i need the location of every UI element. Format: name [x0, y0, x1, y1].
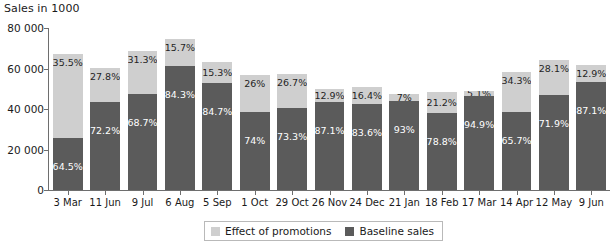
chart-bar[interactable]: 26.7%73.3%: [277, 74, 307, 190]
legend-item-effect-of-promotions[interactable]: Effect of promotions: [211, 225, 331, 237]
bar-slot: 7%93%: [386, 28, 423, 190]
bar-segment-label-baseline: 87.1%: [315, 126, 345, 136]
bar-segment-baseline[interactable]: 84.7%: [202, 83, 232, 190]
chart-bar[interactable]: 12.9%87.1%: [576, 65, 606, 190]
bar-segment-promotions[interactable]: 15.3%: [202, 62, 232, 82]
bar-segment-promotions[interactable]: 27.8%: [90, 68, 120, 102]
legend-label-promotions: Effect of promotions: [225, 225, 331, 237]
bar-segment-promotions[interactable]: 21.2%: [427, 92, 457, 113]
chart-legend: Effect of promotions Baseline sales: [204, 221, 443, 241]
bar-segment-promotions[interactable]: 34.3%: [502, 72, 532, 113]
bar-segment-label-promotions: 12.9%: [315, 91, 345, 101]
chart-bar[interactable]: 35.5%64.5%: [53, 54, 83, 190]
chart-bar[interactable]: 5.1%94.9%: [464, 91, 494, 190]
bar-segment-promotions[interactable]: 16.4%: [352, 87, 382, 104]
bar-slot: 15.3%84.7%: [199, 28, 236, 190]
bar-segment-label-promotions: 31.3%: [128, 55, 158, 65]
bar-segment-label-promotions: 15.3%: [202, 68, 232, 78]
x-axis-tick-label: 21 Jan: [389, 197, 420, 208]
bar-segment-promotions[interactable]: 31.3%: [128, 51, 158, 94]
bar-segment-baseline[interactable]: 72.2%: [90, 102, 120, 190]
chart-bar[interactable]: 34.3%65.7%: [502, 72, 532, 190]
x-axis-tick: [404, 191, 405, 195]
x-axis-tick: [292, 191, 293, 195]
bar-segment-label-baseline: 83.6%: [352, 128, 382, 138]
x-axis-tick-label: 1 Oct: [241, 197, 268, 208]
bar-segment-promotions[interactable]: 12.9%: [576, 65, 606, 81]
bar-slot: 12.9%87.1%: [573, 28, 610, 190]
chart-bar[interactable]: 16.4%83.6%: [352, 87, 382, 190]
x-axis-tick: [180, 191, 181, 195]
y-axis-tick-label: 60 000: [0, 63, 44, 75]
bar-segment-label-promotions: 26%: [244, 79, 265, 89]
bar-slot: 27.8%72.2%: [86, 28, 123, 190]
bar-segment-label-baseline: 84.3%: [165, 90, 195, 100]
x-axis-tick-label: 11 Jun: [89, 197, 121, 208]
bar-slot: 15.7%84.3%: [161, 28, 198, 190]
x-axis-tick-label: 9 Jun: [579, 197, 604, 208]
bar-segment-label-promotions: 27.8%: [90, 72, 120, 82]
chart-bar[interactable]: 15.3%84.7%: [202, 62, 232, 190]
bar-segment-label-baseline: 87.1%: [576, 106, 606, 116]
bar-segment-promotions[interactable]: 12.9%: [315, 89, 345, 102]
bar-segment-baseline[interactable]: 78.8%: [427, 113, 457, 190]
bar-segment-baseline[interactable]: 93%: [389, 101, 419, 190]
bar-slot: 26%74%: [236, 28, 273, 190]
bar-segment-label-promotions: 28.1%: [539, 64, 569, 74]
y-axis-tick-label: 80 000: [0, 22, 44, 34]
bar-segment-label-baseline: 68.7%: [128, 118, 158, 128]
bar-segment-baseline[interactable]: 68.7%: [128, 94, 158, 190]
chart-bar[interactable]: 21.2%78.8%: [427, 92, 457, 190]
x-axis-tick: [105, 191, 106, 195]
chart-bar[interactable]: 15.7%84.3%: [165, 39, 195, 190]
bar-segment-promotions[interactable]: 35.5%: [53, 54, 83, 138]
x-axis-tick: [479, 191, 480, 195]
bar-segment-label-baseline: 64.5%: [53, 162, 83, 172]
bar-segment-baseline[interactable]: 87.1%: [576, 82, 606, 190]
x-axis-tick-label: 14 Apr: [500, 197, 533, 208]
x-axis-tick: [68, 191, 69, 195]
chart-bar[interactable]: 28.1%71.9%: [539, 60, 569, 190]
bar-segment-baseline[interactable]: 71.9%: [539, 95, 569, 190]
bar-segment-label-promotions: 7%: [397, 94, 412, 101]
y-axis-tick-label: 0: [0, 184, 44, 196]
bar-segment-label-promotions: 12.9%: [576, 69, 606, 79]
bar-slot: 31.3%68.7%: [124, 28, 161, 190]
chart-bar[interactable]: 26%74%: [240, 75, 270, 190]
chart-bar[interactable]: 7%93%: [389, 94, 419, 190]
x-axis-tick: [217, 191, 218, 195]
bar-segment-promotions[interactable]: 26%: [240, 75, 270, 112]
bar-segment-label-promotions: 35.5%: [53, 58, 83, 68]
bar-segment-promotions[interactable]: 26.7%: [277, 74, 307, 108]
bar-segment-baseline[interactable]: 64.5%: [53, 138, 83, 190]
x-axis-tick-label: 26 Nov: [312, 197, 347, 208]
x-axis-tick-label: 17 Mar: [462, 197, 497, 208]
bar-slot: 28.1%71.9%: [535, 28, 572, 190]
bar-segment-promotions[interactable]: 28.1%: [539, 60, 569, 94]
legend-swatch-icon-baseline: [345, 227, 354, 236]
bar-segment-baseline[interactable]: 94.9%: [464, 96, 494, 190]
x-axis-tick: [330, 191, 331, 195]
bar-segment-label-baseline: 65.7%: [502, 136, 532, 146]
bar-segment-baseline[interactable]: 83.6%: [352, 104, 382, 190]
bar-slot: 5.1%94.9%: [460, 28, 497, 190]
legend-item-baseline-sales[interactable]: Baseline sales: [345, 225, 434, 237]
x-axis-tick: [442, 191, 443, 195]
bar-segment-baseline[interactable]: 65.7%: [502, 112, 532, 190]
sales-stacked-bar-chart: Sales in 1000 020 00040 00060 00080 000 …: [0, 0, 613, 243]
bar-segment-baseline[interactable]: 73.3%: [277, 108, 307, 190]
y-axis-tick-label: 40 000: [0, 103, 44, 115]
chart-bar[interactable]: 12.9%87.1%: [315, 89, 345, 190]
bar-segment-promotions[interactable]: 7%: [389, 94, 419, 101]
bar-segment-baseline[interactable]: 87.1%: [315, 102, 345, 190]
legend-swatch-icon-promotions: [211, 227, 220, 236]
bar-slot: 16.4%83.6%: [348, 28, 385, 190]
chart-bar[interactable]: 31.3%68.7%: [128, 51, 158, 190]
bar-segment-promotions[interactable]: 15.7%: [165, 39, 195, 66]
x-axis-tick: [255, 191, 256, 195]
bar-segment-baseline[interactable]: 74%: [240, 112, 270, 190]
chart-bar[interactable]: 27.8%72.2%: [90, 68, 120, 191]
x-axis-tick-label: 24 Dec: [349, 197, 384, 208]
bar-slot: 34.3%65.7%: [498, 28, 535, 190]
bar-segment-baseline[interactable]: 84.3%: [165, 66, 195, 190]
